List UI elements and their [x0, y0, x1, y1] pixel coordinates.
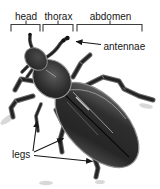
antennae-label: antennae: [104, 41, 146, 52]
region-brackets: [11, 21, 142, 32]
legs-arrow-1: [33, 121, 37, 151]
abdomen-bracket: [77, 21, 142, 32]
antennae-arrow: [76, 42, 101, 45]
diagram-canvas: head thorax abdomen antennae legs: [0, 0, 160, 189]
abdomen-label: abdomen: [90, 11, 132, 22]
legs-arrow-3: [34, 156, 93, 162]
leg-mid-left: [11, 96, 33, 117]
beetle-anatomy-diagram: head thorax abdomen antennae legs: [0, 0, 160, 189]
thorax-bracket: [43, 21, 73, 32]
legs-label: legs: [12, 149, 30, 160]
thorax-label: thorax: [45, 11, 73, 22]
leg-front-right: [73, 55, 90, 77]
head-label: head: [15, 11, 37, 22]
antenna-right-icon: [47, 36, 70, 57]
head-bracket: [11, 21, 40, 32]
leg-front-left: [15, 79, 33, 90]
